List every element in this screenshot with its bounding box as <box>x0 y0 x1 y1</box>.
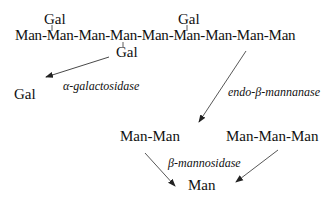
galactosidase-arrow <box>46 57 109 77</box>
branch-gal-bottom: Gal <box>116 45 138 60</box>
product-dimer: Man-Man <box>120 129 180 144</box>
galactosidase-label: α-galactosidase <box>63 80 139 92</box>
product-monomer: Man <box>188 178 216 193</box>
branch-gal-top-right: Gal <box>178 12 200 27</box>
mannosidase-label: β-mannosidase <box>168 157 241 169</box>
mannosidase-arrow-right <box>236 150 278 182</box>
released-gal: Gal <box>14 87 36 102</box>
mannan-chain: Man-Man-Man-Man-Man-Man-Man-Man-Man <box>15 28 295 43</box>
product-trimer: Man-Man-Man <box>226 129 318 144</box>
branch-gal-top-left: Gal <box>44 12 66 27</box>
mannanase-label: endo-β-mannanase <box>228 86 320 98</box>
